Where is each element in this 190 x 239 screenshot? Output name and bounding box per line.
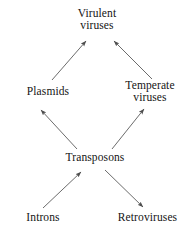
edge-plasmids-to-virulent	[52, 41, 86, 80]
node-introns: Introns	[8, 211, 78, 223]
node-label-line2: viruses	[110, 91, 190, 103]
edge-transposons-to-temperate	[112, 109, 144, 149]
node-label-line1: Transposons	[45, 151, 145, 163]
node-label-line1: Introns	[8, 211, 78, 223]
node-virulent-viruses: Virulent viruses	[47, 7, 147, 31]
node-label-line1: Temperate	[110, 79, 190, 91]
edge-introns-to-transposons	[43, 172, 81, 208]
node-label-line1: Virulent	[47, 7, 147, 19]
node-temperate-viruses: Temperate viruses	[110, 79, 190, 103]
node-label-line2: viruses	[47, 19, 147, 31]
edge-transposons-to-plasmids	[41, 110, 77, 149]
node-plasmids: Plasmids	[8, 85, 88, 97]
edge-temperate-to-virulent	[114, 41, 152, 79]
node-transposons: Transposons	[45, 151, 145, 163]
node-retroviruses: Retroviruses	[105, 211, 190, 223]
node-label-line1: Plasmids	[8, 85, 88, 97]
diagram-canvas: Virulent viruses Plasmids Temperate viru…	[0, 0, 190, 239]
edge-group	[41, 41, 152, 208]
arrow-layer	[0, 0, 190, 239]
node-label-line1: Retroviruses	[105, 211, 190, 223]
edge-transposons-to-retroviruses	[105, 170, 143, 207]
